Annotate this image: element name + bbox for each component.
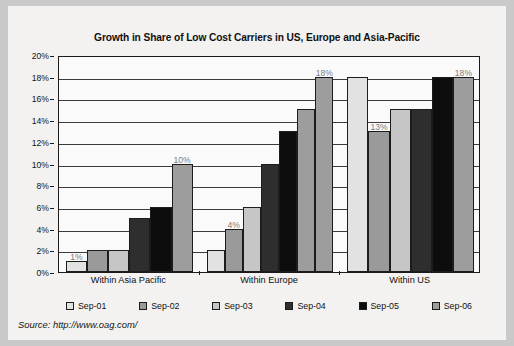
- bar[interactable]: [150, 207, 171, 272]
- y-tick-label: 18%: [32, 73, 49, 83]
- bar[interactable]: [390, 109, 411, 272]
- y-tick-mark: [50, 99, 54, 100]
- y-tick-label: 12%: [32, 138, 49, 148]
- y-tick-mark: [50, 251, 54, 252]
- y-tick-mark: [50, 208, 54, 209]
- bar[interactable]: [108, 250, 129, 272]
- bar[interactable]: [315, 77, 333, 272]
- y-tick-label: 2%: [37, 246, 49, 256]
- bar[interactable]: [432, 77, 453, 272]
- y-tick-label: 4%: [37, 225, 49, 235]
- bar[interactable]: [279, 131, 297, 272]
- legend-label: Sep-05: [371, 301, 399, 311]
- legend-item[interactable]: Sep-01: [66, 301, 106, 311]
- bar-value-label: 13%: [370, 122, 387, 132]
- bar[interactable]: [87, 250, 108, 272]
- y-tick-mark: [50, 121, 54, 122]
- bar-value-label: 1%: [70, 252, 82, 262]
- y-tick-label: 0%: [37, 268, 49, 278]
- legend-swatch-icon: [66, 302, 74, 310]
- y-tick-label: 8%: [37, 181, 49, 191]
- y-tick-mark: [50, 165, 54, 166]
- bar[interactable]: [411, 109, 432, 272]
- y-axis: 0%2%4%6%8%10%12%14%16%18%20%: [8, 56, 54, 273]
- y-tick-label: 10%: [32, 160, 49, 170]
- plot-area: 1%10%4%18%13%18%: [58, 56, 480, 273]
- bar[interactable]: [225, 229, 243, 272]
- y-tick-mark: [50, 56, 54, 57]
- bar-value-label: 18%: [455, 68, 472, 78]
- bar[interactable]: [297, 109, 315, 272]
- x-category-label: Within US: [389, 275, 430, 285]
- bar[interactable]: [261, 164, 279, 273]
- x-tick-mark: [339, 271, 340, 275]
- legend-label: Sep-06: [444, 301, 472, 311]
- legend-swatch-icon: [285, 302, 293, 310]
- legend-label: Sep-04: [297, 301, 325, 311]
- bar[interactable]: [66, 261, 87, 272]
- x-axis: Within Asia PacificWithin EuropeWithin U…: [58, 275, 480, 291]
- y-tick-mark: [50, 230, 54, 231]
- legend-item[interactable]: Sep-05: [359, 301, 399, 311]
- bar-value-label: 10%: [174, 155, 191, 165]
- bar[interactable]: [243, 207, 261, 272]
- bar[interactable]: [453, 77, 474, 272]
- bar[interactable]: [347, 77, 368, 272]
- legend-swatch-icon: [359, 302, 367, 310]
- plot-inner: 1%10%4%18%13%18%: [59, 57, 479, 272]
- y-tick-mark: [50, 273, 54, 274]
- y-tick-label: 14%: [32, 116, 49, 126]
- y-tick-mark: [50, 143, 54, 144]
- bar-value-label: 4%: [228, 220, 240, 230]
- x-category-label: Within Europe: [240, 275, 298, 285]
- legend-item[interactable]: Sep-02: [139, 301, 179, 311]
- legend-item[interactable]: Sep-04: [285, 301, 325, 311]
- source-note: Source: http://www.oag.com/: [18, 319, 137, 330]
- y-tick-label: 6%: [37, 203, 49, 213]
- bar-group: 13%18%: [347, 57, 474, 272]
- legend-item[interactable]: Sep-03: [212, 301, 252, 311]
- y-tick-mark: [50, 78, 54, 79]
- bar[interactable]: [207, 250, 225, 272]
- chart-title: Growth in Share of Low Cost Carriers in …: [8, 32, 506, 43]
- bar[interactable]: [368, 131, 389, 272]
- legend-swatch-icon: [139, 302, 147, 310]
- bar[interactable]: [129, 218, 150, 272]
- legend-label: Sep-03: [224, 301, 252, 311]
- y-tick-label: 16%: [32, 94, 49, 104]
- bar-group: 1%10%: [66, 57, 193, 272]
- legend-item[interactable]: Sep-06: [432, 301, 472, 311]
- legend-swatch-icon: [212, 302, 220, 310]
- chart-legend: Sep-01Sep-02Sep-03Sep-04Sep-05Sep-06: [58, 297, 480, 315]
- document-sheet: Growth in Share of Low Cost Carriers in …: [8, 6, 506, 340]
- x-category-label: Within Asia Pacific: [91, 275, 166, 285]
- x-tick-mark: [199, 271, 200, 275]
- legend-swatch-icon: [432, 302, 440, 310]
- y-tick-mark: [50, 186, 54, 187]
- bar-group: 4%18%: [207, 57, 334, 272]
- y-tick-label: 20%: [32, 51, 49, 61]
- screenshot-page: Growth in Share of Low Cost Carriers in …: [0, 0, 514, 346]
- legend-label: Sep-01: [78, 301, 106, 311]
- legend-label: Sep-02: [151, 301, 179, 311]
- bar[interactable]: [172, 164, 193, 273]
- bar-value-label: 18%: [316, 68, 333, 78]
- chart-figure: Growth in Share of Low Cost Carriers in …: [8, 6, 506, 340]
